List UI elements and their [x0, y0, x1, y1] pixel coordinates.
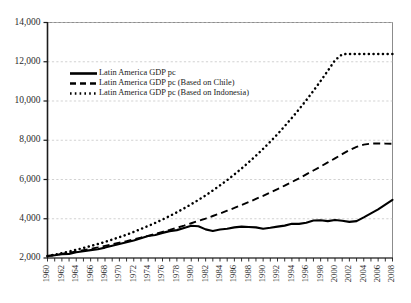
x-tick-label: 2004	[358, 264, 368, 282]
x-tick-label: 1964	[70, 264, 80, 282]
y-tick-label: 14,000	[14, 17, 40, 27]
legend-label-indonesia: Latin America GDP pc (Based on Indonesia…	[99, 88, 249, 97]
chart-figure: 2,0004,0006,0008,00010,00012,00014,000 1…	[0, 0, 411, 303]
x-tick-label: 1972	[128, 265, 138, 282]
legend-label-actual: Latin America GDP pc	[99, 68, 176, 77]
x-tick-label: 1978	[171, 265, 181, 282]
legend-label-chile: Latin America GDP pc (Based on Chile)	[99, 78, 235, 87]
y-tick-label: 12,000	[14, 56, 40, 66]
x-tick-label: 2006	[372, 264, 382, 282]
x-tick-label: 1980	[185, 265, 195, 282]
x-tick-label: 1992	[271, 265, 281, 282]
x-tick-label: 1994	[286, 264, 296, 282]
x-tick-label: 2008	[386, 265, 396, 282]
y-tick-label: 10,000	[14, 95, 40, 105]
y-tick-label: 2,000	[19, 252, 41, 262]
x-tick-label: 1998	[315, 265, 325, 282]
x-tick-label: 1990	[257, 265, 267, 282]
x-tick-label: 1970	[113, 265, 123, 282]
x-tick-label: 1982	[200, 265, 210, 282]
y-tick-label: 6,000	[19, 174, 41, 184]
x-tick-label: 1974	[142, 264, 152, 282]
x-tick-label: 1960	[41, 265, 51, 282]
y-tick-label: 4,000	[19, 213, 41, 223]
x-tick-label: 1988	[243, 265, 253, 282]
x-tick-label: 1976	[156, 264, 166, 282]
x-tick-label: 2000	[329, 265, 339, 282]
x-tick-label: 1984	[214, 264, 224, 282]
gdp-line-chart: 2,0004,0006,0008,00010,00012,00014,000 1…	[0, 0, 411, 303]
x-tick-label: 1968	[99, 265, 109, 282]
y-tick-label: 8,000	[19, 134, 41, 144]
x-tick-label: 1996	[300, 264, 310, 282]
x-tick-label: 1966	[85, 264, 95, 282]
x-tick-label: 1986	[228, 264, 238, 282]
x-tick-label: 2002	[343, 265, 353, 282]
x-tick-label: 1962	[56, 265, 66, 282]
